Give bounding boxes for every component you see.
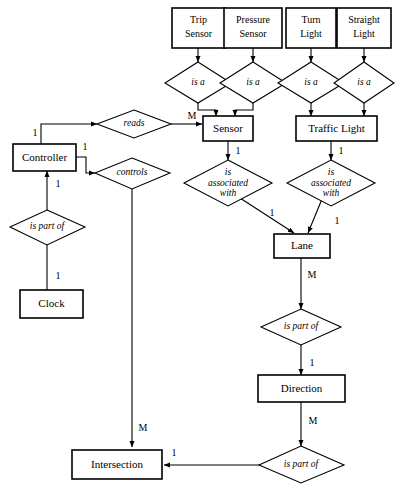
edge-assoc-sensor-to-lane (240, 198, 294, 233)
cardinality-controller-ispartof: 1 (56, 178, 61, 189)
entity-clock-label: Clock (38, 297, 65, 309)
relationship-controls[interactable]: controls (95, 158, 170, 189)
edge-isa-trip-to-sensor (198, 103, 216, 116)
er-diagram: Trip Sensor Pressure Sensor Turn Light S… (0, 0, 395, 493)
relationship-isa-turn-light-label: is a (304, 77, 318, 87)
diagram-canvas: Trip Sensor Pressure Sensor Turn Light S… (0, 0, 395, 493)
relationship-isa-straight-light-label: is a (357, 77, 371, 87)
relationship-assoc-light-lane-label-1: is (328, 167, 335, 177)
entity-direction[interactable]: Direction (258, 375, 345, 402)
entity-lane-label: Lane (291, 239, 313, 251)
edge-controller-to-reads (41, 124, 97, 144)
entity-sensor-label: Sensor (213, 122, 243, 134)
cardinality-clock-ispartof: 1 (56, 270, 61, 281)
entity-lane[interactable]: Lane (274, 234, 330, 258)
cardinality-assoc-sensor-lane: 1 (270, 207, 275, 218)
edge-controller-to-controls (76, 157, 95, 173)
entity-straight-light-label-1: Straight (348, 14, 380, 25)
entity-traffic-light[interactable]: Traffic Light (296, 116, 377, 141)
entity-turn-light-label-1: Turn (301, 14, 320, 25)
entity-trip-sensor-label-2: Sensor (185, 28, 213, 39)
relationship-isa-straight-light[interactable]: is a (334, 62, 394, 103)
entity-sensor[interactable]: Sensor (203, 116, 253, 141)
entity-turn-light[interactable]: Turn Light (286, 8, 336, 48)
entity-controller[interactable]: Controller (13, 144, 76, 171)
cardinality-layer: 1 M 1 1 1 1 1 1 1 M 1 M 1 M (33, 110, 344, 458)
entity-straight-light[interactable]: Straight Light (337, 8, 391, 48)
cardinality-controls-intersection: M (139, 422, 148, 433)
cardinality-controller-reads: 1 (33, 127, 38, 138)
cardinality-light-assoc: 1 (339, 145, 344, 156)
entity-direction-label: Direction (281, 382, 323, 394)
relationship-reads-label: reads (124, 118, 145, 128)
cardinality-reads-sensor: M (188, 110, 197, 121)
relationship-is-part-of-lane-label: is part of (284, 321, 320, 331)
relationship-is-part-of-lane[interactable]: is part of (261, 309, 341, 345)
relationship-isa-trip-sensor-label: is a (191, 77, 205, 87)
entity-trip-sensor[interactable]: Trip Sensor (172, 8, 225, 48)
entity-pressure-sensor[interactable]: Pressure Sensor (224, 8, 282, 48)
entity-controller-label: Controller (22, 151, 68, 163)
entity-traffic-light-label: Traffic Light (308, 122, 365, 134)
entity-intersection-label: Intersection (91, 458, 143, 470)
cardinality-ispartof-direction: 1 (310, 357, 315, 368)
entity-intersection[interactable]: Intersection (72, 450, 162, 479)
relationship-assoc-sensor-lane-label-1: is (225, 167, 232, 177)
relationship-assoc-sensor-lane-label-2: associated (208, 178, 248, 188)
relationship-assoc-light-lane-label-2: associated (311, 178, 351, 188)
relationship-is-part-of-direction[interactable]: is part of (259, 446, 344, 483)
relationship-is-part-of-direction-label: is part of (284, 459, 320, 469)
cardinality-controller-controls: 1 (83, 141, 88, 152)
entity-clock[interactable]: Clock (20, 290, 83, 318)
relationship-is-part-of-clock[interactable]: is part of (10, 210, 85, 245)
cardinality-lane-ispartof: M (308, 269, 317, 280)
cardinality-sensor-assoc: 1 (236, 145, 241, 156)
relationship-assoc-light-lane-label-3: with (323, 188, 340, 198)
cardinality-assoc-light-lane: 1 (335, 215, 340, 226)
relationship-controls-label: controls (117, 167, 148, 177)
cardinality-direction-ispartof: M (309, 415, 318, 426)
cardinality-ispartof-intersection: 1 (172, 447, 177, 458)
entity-pressure-sensor-label-1: Pressure (236, 14, 270, 25)
relationship-isa-pressure-sensor-label: is a (246, 77, 260, 87)
relationship-reads[interactable]: reads (97, 110, 171, 138)
entity-pressure-sensor-label-2: Sensor (239, 28, 267, 39)
edge-isa-pressure-to-sensor (235, 103, 253, 116)
entity-turn-light-label-2: Light (300, 28, 322, 39)
relationship-assoc-sensor-lane-label-3: with (220, 188, 237, 198)
edge-assoc-light-to-lane (308, 199, 322, 233)
entity-trip-sensor-label-1: Trip (190, 14, 207, 25)
relationship-isa-pressure-sensor[interactable]: is a (220, 62, 286, 103)
relationship-assoc-light-lane[interactable]: is associated with (287, 160, 375, 206)
relationship-is-part-of-clock-label: is part of (30, 221, 66, 231)
relationship-assoc-sensor-lane[interactable]: is associated with (184, 160, 272, 206)
entity-straight-light-label-2: Light (353, 28, 375, 39)
